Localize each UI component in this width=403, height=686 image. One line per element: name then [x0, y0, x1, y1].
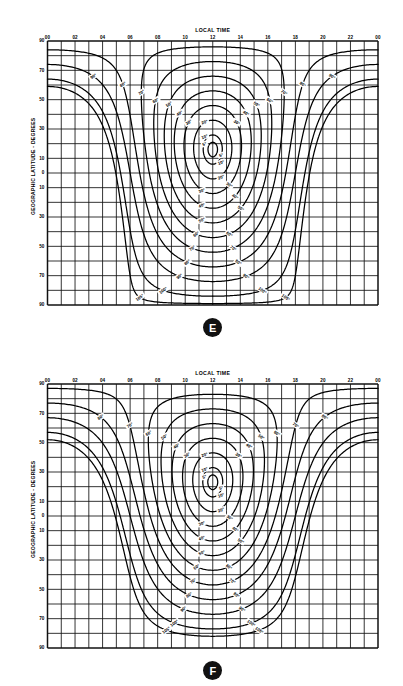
contour-plot-E: 5°5°10°10°20°20°30°30°30°30°40°40°40°40°… [0, 0, 403, 343]
chart-panel-E: LOCAL TIME GEOGRAPHIC LATITUDE - DEGREES… [0, 0, 403, 343]
contour-plot-F: 5°5°10°10°20°20°30°30°30°30°40°40°40°40°… [0, 343, 403, 686]
figure-page: LOCAL TIME GEOGRAPHIC LATITUDE - DEGREES… [0, 0, 403, 686]
chart-panel-F: LOCAL TIME GEOGRAPHIC LATITUDE - DEGREES… [0, 343, 403, 686]
